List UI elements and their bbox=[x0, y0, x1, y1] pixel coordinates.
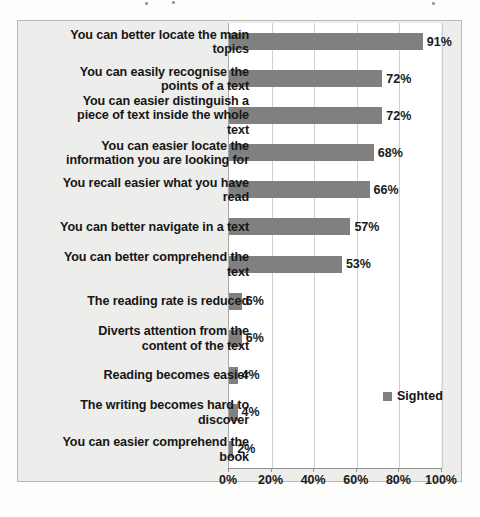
bar bbox=[229, 144, 374, 161]
legend-swatch-sighted bbox=[383, 392, 392, 401]
bar-value-label: 72% bbox=[386, 110, 411, 123]
category-label: You can easier comprehend the book bbox=[53, 435, 249, 464]
x-tick-100 bbox=[441, 468, 442, 472]
bar-value-label: 53% bbox=[346, 258, 371, 271]
cropped-text-artifact bbox=[0, 0, 480, 14]
bar bbox=[229, 70, 382, 87]
x-tick-label-40: 40% bbox=[301, 473, 326, 487]
category-label: You can easier distinguish a piece of te… bbox=[53, 94, 249, 138]
category-label: Diverts attention from the content of th… bbox=[53, 324, 249, 353]
bar-value-label: 68% bbox=[378, 147, 403, 160]
legend-label-sighted: Sighted bbox=[397, 389, 443, 403]
bar bbox=[229, 181, 370, 198]
x-tick-label-20: 20% bbox=[258, 473, 283, 487]
x-tick-label-80: 80% bbox=[386, 473, 411, 487]
category-label: The reading rate is reduced bbox=[53, 294, 249, 309]
bar-value-label: 57% bbox=[354, 221, 379, 234]
x-tick-80 bbox=[398, 468, 399, 472]
category-label: You can better locate the main topics bbox=[53, 27, 249, 56]
bar bbox=[229, 33, 423, 50]
bar bbox=[229, 107, 382, 124]
bar-value-label: 66% bbox=[374, 184, 399, 197]
chart-legend: Sighted bbox=[383, 389, 443, 403]
x-axis-tick-labels: 0%20%40%60%80%100% bbox=[228, 473, 442, 493]
x-tick-0 bbox=[228, 468, 229, 472]
category-label: The writing becomes hard to discover bbox=[53, 398, 249, 427]
category-label: You recall easier what you have read bbox=[53, 175, 249, 204]
category-label: You can better comprehend the text bbox=[53, 250, 249, 279]
x-tick-label-0: 0% bbox=[219, 473, 237, 487]
x-tick-label-100: 100% bbox=[425, 473, 457, 487]
x-tick-label-60: 60% bbox=[343, 473, 368, 487]
x-tick-40 bbox=[313, 468, 314, 472]
category-label: You can easily recognise the points of a… bbox=[53, 64, 249, 93]
x-tick-60 bbox=[356, 468, 357, 472]
category-label: You can easier locate the information yo… bbox=[53, 138, 249, 167]
category-label: You can better navigate in a text bbox=[53, 220, 249, 235]
x-tick-20 bbox=[271, 468, 272, 472]
bar-value-label: 72% bbox=[386, 73, 411, 86]
category-label: Reading becomes easier bbox=[53, 368, 249, 383]
chart-frame: 91%72%72%68%66%57%53%6%6%4%4%2% 0%20%40%… bbox=[17, 20, 462, 482]
bar-value-label: 91% bbox=[427, 36, 452, 49]
